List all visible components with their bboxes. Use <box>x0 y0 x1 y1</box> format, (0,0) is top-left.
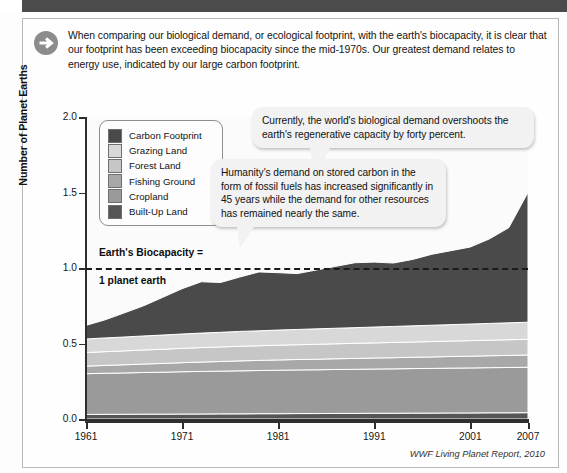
legend-label: Fishing Ground <box>129 176 195 187</box>
callout-tail-icon <box>235 227 257 249</box>
y-tick <box>79 344 85 346</box>
y-tick <box>79 193 85 195</box>
legend-label: Cropland <box>129 191 168 202</box>
area-series-cropland <box>86 367 528 414</box>
callout-overshoot-text: Currently, the world's biological demand… <box>262 114 524 141</box>
x-tick <box>182 423 184 429</box>
x-tick <box>470 423 472 429</box>
y-tick-label-text: 1.0 <box>43 262 77 273</box>
legend-item: Cropland <box>108 189 214 204</box>
legend-swatch <box>108 144 122 158</box>
header-bar-left-gap <box>0 0 22 12</box>
intro-text: When comparing our biological demand, or… <box>68 29 549 72</box>
intro-block: When comparing our biological demand, or… <box>33 29 549 72</box>
chart-legend: Carbon FootprintGrazing LandForest LandF… <box>99 120 223 226</box>
y-tick <box>79 268 85 270</box>
legend-swatch <box>108 189 122 203</box>
x-tick <box>374 423 376 429</box>
legend-swatch <box>108 159 122 173</box>
legend-swatch <box>108 129 122 143</box>
page-header-bar <box>22 0 567 12</box>
figure-page: When comparing our biological demand, or… <box>0 0 567 473</box>
x-axis-line <box>85 419 529 423</box>
legend-item: Forest Land <box>108 158 214 173</box>
arrow-right-circle-icon <box>33 30 59 56</box>
source-citation: WWF Living Planet Report, 2010 <box>410 449 545 459</box>
legend-label: Carbon Footprint <box>129 130 202 141</box>
y-tick-label-text: 2.0 <box>43 111 77 122</box>
x-tick-label: 2001 <box>448 431 492 442</box>
x-tick <box>528 423 530 429</box>
legend-item: Grazing Land <box>108 143 214 158</box>
x-tick-label: 1981 <box>256 431 300 442</box>
x-tick-label: 1991 <box>352 431 396 442</box>
callout-carbon: Humanity's demand on stored carbon in th… <box>211 159 446 227</box>
y-axis-title: Number of Planet Earths <box>17 35 29 215</box>
legend-item: Fishing Ground <box>108 174 214 189</box>
y-tick <box>79 419 85 421</box>
legend-label: Built-Up Land <box>129 206 188 217</box>
legend-swatch <box>108 174 122 188</box>
callout-carbon-text: Humanity's demand on stored carbon in th… <box>221 166 436 220</box>
callout-overshoot: Currently, the world's biological demand… <box>252 107 534 148</box>
figure-card: When comparing our biological demand, or… <box>22 18 559 468</box>
legend-swatch <box>108 205 122 219</box>
y-tick <box>79 117 85 119</box>
y-tick-label-text: 1.5 <box>43 187 77 198</box>
x-tick-label: 1971 <box>160 431 204 442</box>
y-tick-label-text: 0.0 <box>43 413 77 424</box>
biocapacity-label-line2: 1 planet earth <box>99 275 166 286</box>
legend-label: Grazing Land <box>129 145 187 156</box>
y-tick-label-text: 0.5 <box>43 338 77 349</box>
legend-item: Carbon Footprint <box>108 128 214 143</box>
x-tick-label: 1961 <box>64 431 108 442</box>
x-tick <box>86 423 88 429</box>
biocapacity-reference-line <box>86 268 528 270</box>
x-tick <box>278 423 280 429</box>
biocapacity-label-line1: Earth's Biocapacity = <box>99 247 203 258</box>
x-tick-label: 2007 <box>506 431 550 442</box>
legend-item: Built-Up Land <box>108 204 214 219</box>
legend-label: Forest Land <box>129 160 181 171</box>
